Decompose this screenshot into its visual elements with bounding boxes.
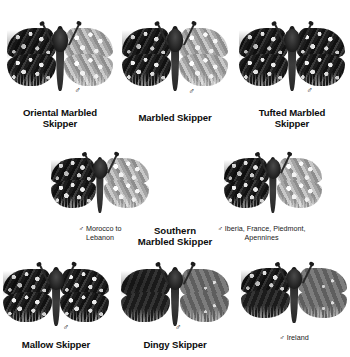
sex-symbol-male: ♂ (307, 85, 313, 95)
right-hindwing (104, 180, 149, 208)
right-hindwing (296, 54, 344, 87)
locality-line-2: Lebanon (79, 234, 122, 243)
left-hindwing (241, 290, 289, 318)
species-label-tufted-marbled-skipper: Tufted Marbled Skipper (259, 107, 326, 130)
left-hindwing (51, 180, 96, 208)
thorax (167, 29, 183, 52)
thorax (52, 29, 68, 52)
specimen-cell-tufted-marbled-skipper: ♂ Tufted Marbled Skipper (236, 14, 348, 130)
thorax (284, 29, 300, 52)
specimen-image-dingy-skipper: ♂ (118, 256, 232, 336)
right-hindwing (64, 54, 112, 87)
sex-symbol-male: ♂ (188, 86, 194, 96)
species-label-marbled-skipper: Marbled Skipper (138, 112, 211, 123)
left-hindwing (122, 54, 170, 87)
left-hindwing (239, 54, 287, 87)
specimen-cell-marbled-skipper: ♂ Marbled Skipper (119, 14, 231, 123)
right-hindwing (277, 180, 322, 208)
sex-symbol-male: ♂ (175, 322, 181, 332)
thorax (48, 270, 64, 291)
specimen-image-southern-marbled-skipper-morocco (48, 146, 152, 222)
thorax (93, 159, 108, 179)
specimen-image-oriental-marbled-skipper: ♂ (4, 14, 116, 102)
left-hindwing (121, 292, 170, 322)
right-hindwing (298, 290, 346, 318)
left-hindwing (224, 180, 269, 208)
specimen-cell-dingy-skipper-ireland: ♂ Ireland (238, 256, 350, 343)
specimen-image-mallow-skipper: ♂ (0, 256, 112, 336)
left-hindwing (7, 54, 55, 87)
thorax (167, 270, 183, 291)
locality-line-2: Apennines (187, 234, 337, 243)
specimen-cell-mallow-skipper: ♂ Mallow Skipper (0, 256, 112, 350)
left-hindwing (3, 292, 51, 322)
specimen-image-dingy-skipper-ireland (238, 256, 350, 332)
specimen-cell-dingy-skipper: ♂ Dingy Skipper (118, 256, 232, 350)
sex-symbol-male: ♂ (63, 322, 69, 332)
right-hindwing (60, 292, 108, 322)
species-label-mallow-skipper: Mallow Skipper (22, 339, 90, 350)
locality-label-ireland: ♂ Ireland (279, 334, 308, 343)
specimen-cell-southern-marbled-skipper-iberia: ♂ Iberia, France, Piedmont, Apennines (198, 146, 348, 242)
species-label-dingy-skipper: Dingy Skipper (143, 339, 206, 350)
right-hindwing (180, 292, 229, 322)
species-label-oriental-marbled-skipper: Oriental Marbled Skipper (23, 107, 97, 130)
sex-symbol-male: ♂ (75, 85, 81, 95)
specimen-image-tufted-marbled-skipper: ♂ (236, 14, 348, 102)
locality-label-iberia-france-piedmont-apennines: ♂ Iberia, France, Piedmont, Apennines (187, 225, 337, 242)
specimen-image-marbled-skipper: ♂ (119, 14, 231, 102)
locality-label-morocco-to-lebanon: ♂ Morocco to Lebanon (79, 225, 122, 242)
specimen-cell-oriental-marbled-skipper: ♂ Oriental Marbled Skipper (4, 14, 116, 130)
thorax (266, 159, 281, 179)
specimen-image-southern-marbled-skipper-iberia (221, 146, 325, 222)
right-hindwing (179, 54, 227, 87)
thorax (286, 269, 302, 289)
butterfly-identification-plate: ♂ Oriental Marbled Skipper ♂ Marbl (0, 0, 350, 357)
